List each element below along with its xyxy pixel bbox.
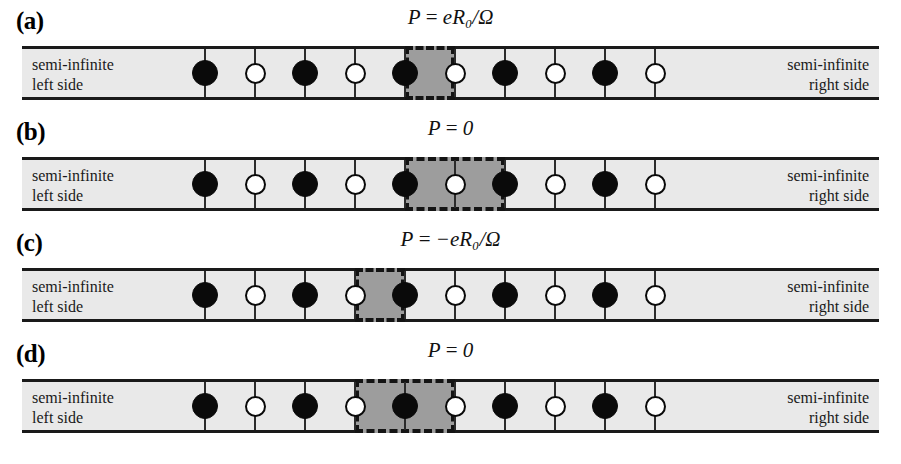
left-side-label-line1: semi-infinite: [32, 55, 114, 75]
atom-open: [345, 396, 366, 417]
atom-open: [645, 174, 666, 195]
atom-filled: [392, 60, 418, 86]
eq-rhs: −eR₀/Ω: [436, 227, 501, 251]
atom-open: [345, 174, 366, 195]
lattice-band: semi-infiniteleft sidesemi-infiniteright…: [22, 46, 879, 100]
atom-filled: [292, 60, 318, 86]
atom-filled: [192, 60, 218, 86]
eq-lhs: P: [428, 338, 441, 362]
atom-open: [445, 285, 466, 306]
right-side-label-line1: semi-infinite: [787, 388, 869, 408]
atom-open: [545, 285, 566, 306]
atom-filled: [192, 171, 218, 197]
right-side-label-line1: semi-infinite: [787, 166, 869, 186]
atom-filled: [492, 60, 518, 86]
atom-filled: [592, 60, 618, 86]
polarization-equation: P = −eR₀/Ω: [0, 229, 901, 250]
atom-filled: [392, 393, 418, 419]
left-side-label: semi-infiniteleft side: [32, 166, 114, 207]
atom-filled: [492, 282, 518, 308]
right-side-label: semi-infiniteright side: [787, 55, 869, 96]
eq-relation: =: [440, 116, 462, 140]
atom-filled: [592, 282, 618, 308]
atom-open: [645, 63, 666, 84]
eq-lhs: P: [401, 227, 414, 251]
right-side-label-line2: right side: [787, 408, 869, 428]
left-side-label-line2: left side: [32, 75, 114, 95]
eq-lhs: P: [428, 116, 441, 140]
left-side-label-line1: semi-infinite: [32, 166, 114, 186]
atom-filled: [192, 393, 218, 419]
atom-filled: [392, 171, 418, 197]
polarization-equation: P = 0: [0, 118, 901, 139]
eq-rhs: eR₀/Ω: [443, 5, 493, 29]
right-side-label: semi-infiniteright side: [787, 277, 869, 318]
left-side-label: semi-infiniteleft side: [32, 388, 114, 429]
atom-filled: [592, 393, 618, 419]
left-side-label-line2: left side: [32, 408, 114, 428]
left-side-label-line2: left side: [32, 297, 114, 317]
atom-open: [445, 63, 466, 84]
polarization-equation: P = 0: [0, 340, 901, 361]
atom-open: [245, 174, 266, 195]
right-side-label-line2: right side: [787, 186, 869, 206]
right-side-label: semi-infiniteright side: [787, 166, 869, 207]
atom-open: [545, 396, 566, 417]
left-side-label: semi-infiniteleft side: [32, 277, 114, 318]
panel-a: (a)P = eR₀/Ωsemi-infiniteleft sidesemi-i…: [0, 0, 901, 110]
eq-relation: =: [440, 338, 462, 362]
atom-open: [645, 285, 666, 306]
atom-filled: [492, 393, 518, 419]
atom-filled: [292, 171, 318, 197]
atom-open: [445, 174, 466, 195]
atom-open: [545, 63, 566, 84]
atom-filled: [392, 282, 418, 308]
atom-filled: [292, 282, 318, 308]
atom-open: [545, 174, 566, 195]
figure-panels-abcd: (a)P = eR₀/Ωsemi-infiniteleft sidesemi-i…: [0, 0, 901, 464]
eq-relation: =: [421, 5, 443, 29]
right-side-label-line2: right side: [787, 75, 869, 95]
atom-open: [245, 396, 266, 417]
atom-open: [645, 396, 666, 417]
atom-open: [245, 285, 266, 306]
eq-rhs: 0: [463, 338, 474, 362]
atom-filled: [492, 171, 518, 197]
panel-c: (c)P = −eR₀/Ωsemi-infiniteleft sidesemi-…: [0, 222, 901, 332]
atom-open: [345, 285, 366, 306]
eq-rhs: 0: [463, 116, 474, 140]
right-side-label-line2: right side: [787, 297, 869, 317]
left-side-label-line2: left side: [32, 186, 114, 206]
lattice-band: semi-infiniteleft sidesemi-infiniteright…: [22, 268, 879, 322]
panel-b: (b)P = 0semi-infiniteleft sidesemi-infin…: [0, 111, 901, 221]
polarization-equation: P = eR₀/Ω: [0, 7, 901, 28]
atom-filled: [292, 393, 318, 419]
atom-open: [445, 396, 466, 417]
left-side-label: semi-infiniteleft side: [32, 55, 114, 96]
right-side-label: semi-infiniteright side: [787, 388, 869, 429]
left-side-label-line1: semi-infinite: [32, 277, 114, 297]
left-side-label-line1: semi-infinite: [32, 388, 114, 408]
panel-d: (d)P = 0semi-infiniteleft sidesemi-infin…: [0, 333, 901, 443]
atom-open: [245, 63, 266, 84]
atom-open: [345, 63, 366, 84]
lattice-band: semi-infiniteleft sidesemi-infiniteright…: [22, 379, 879, 433]
right-side-label-line1: semi-infinite: [787, 277, 869, 297]
lattice-band: semi-infiniteleft sidesemi-infiniteright…: [22, 157, 879, 211]
eq-lhs: P: [408, 5, 421, 29]
eq-relation: =: [413, 227, 435, 251]
atom-filled: [192, 282, 218, 308]
atom-filled: [592, 171, 618, 197]
right-side-label-line1: semi-infinite: [787, 55, 869, 75]
